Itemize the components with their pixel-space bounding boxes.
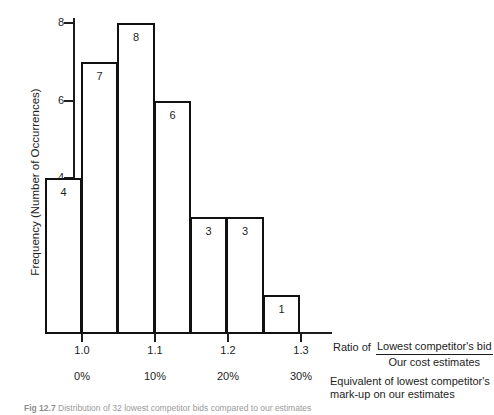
- ratio-denominator-label: Our cost estimates: [376, 355, 493, 369]
- x-axis-ratio-annotation: Ratio of Lowest competitor's bid Our cos…: [333, 340, 493, 369]
- bar-4: [154, 101, 191, 334]
- bar-label-7: 1: [263, 304, 300, 315]
- bar-label-5: 3: [190, 226, 227, 237]
- bar-label-6: 3: [226, 226, 264, 237]
- y-tick-8: [64, 22, 73, 24]
- bar-label-4: 6: [154, 110, 191, 121]
- bar-1: [45, 178, 82, 334]
- figure-caption-number: Fig 12.7: [24, 403, 56, 413]
- figure-caption: Fig 12.7 Distribution of 32 lowest compe…: [24, 403, 484, 414]
- x-tick-label-1-2: 1.2: [208, 345, 248, 356]
- y-tick-label-6: 6: [46, 95, 64, 106]
- x-tick-label-1-0: 1.0: [62, 345, 102, 356]
- ratio-fraction: Lowest competitor's bid Our cost estimat…: [376, 340, 493, 369]
- y-tick-6: [64, 100, 73, 102]
- bar-label-2: 7: [81, 71, 118, 82]
- bar-2: [81, 62, 118, 334]
- x-tick-1-3: [300, 333, 302, 342]
- x-tick-label2-30pct: 30%: [281, 371, 321, 382]
- x-tick-1-0: [81, 333, 83, 342]
- x-tick-1-2: [227, 333, 229, 342]
- y-tick-label-8: 8: [46, 17, 64, 28]
- equivalent-line-1: Equivalent of lowest competitor's: [330, 375, 494, 388]
- x-axis-equivalent-annotation: Equivalent of lowest competitor's mark-u…: [330, 375, 494, 400]
- x-tick-label2-0pct: 0%: [62, 371, 102, 382]
- histogram-figure: Frequency (Number of Occurrences) 8 6 4 …: [0, 0, 494, 415]
- y-axis-title: Frequency (Number of Occurrences): [29, 62, 41, 302]
- x-tick-label2-10pct: 10%: [135, 371, 175, 382]
- x-tick-1-1: [154, 333, 156, 342]
- bar-label-3: 8: [117, 32, 155, 43]
- x-tick-label-1-1: 1.1: [135, 345, 175, 356]
- x-tick-label-1-3: 1.3: [281, 345, 321, 356]
- bar-label-1: 4: [45, 187, 82, 198]
- x-tick-label2-20pct: 20%: [208, 371, 248, 382]
- equivalent-line-2: mark-up on our estimates: [330, 388, 494, 401]
- plot-area: Frequency (Number of Occurrences) 8 6 4 …: [0, 0, 494, 415]
- ratio-numerator-label: Lowest competitor's bid: [376, 340, 493, 355]
- bar-3: [117, 23, 155, 334]
- ratio-prefix-label: Ratio of: [333, 340, 371, 354]
- figure-caption-text: Distribution of 32 lowest competitor bid…: [58, 403, 311, 413]
